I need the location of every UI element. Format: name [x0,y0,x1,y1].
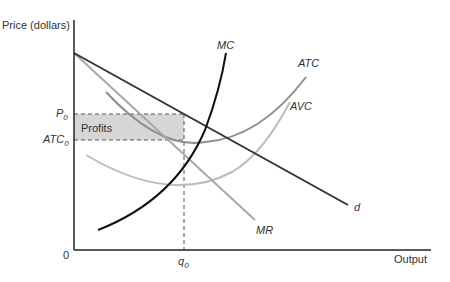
atc-label: ATC [297,57,319,69]
mc-label: MC [217,39,234,51]
profits-label: Profits [81,122,113,134]
monopolistic-competition-chart: Price (dollars) Output 0 P0 ATC0 q0 Prof… [0,0,450,282]
atc0-label: ATC0 [42,133,69,148]
y-axis-label: Price (dollars) [2,19,70,31]
demand-label: d [354,201,361,213]
mr-label: MR [256,224,273,236]
x-axis-label: Output [394,253,427,265]
q0-label: q0 [178,255,189,270]
origin-label: 0 [63,249,69,261]
avc-label: AVC [289,100,312,112]
p0-label: P0 [56,107,68,122]
